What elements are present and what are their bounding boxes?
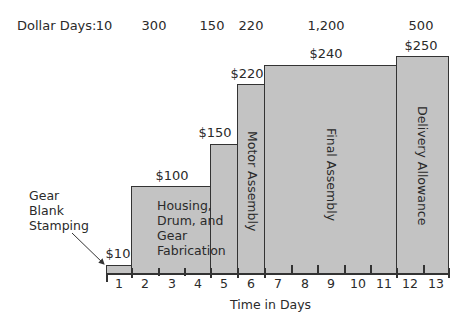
x-tick bbox=[396, 268, 398, 278]
x-tick bbox=[210, 268, 212, 278]
x-tick-label: 7 bbox=[274, 276, 282, 291]
x-tick bbox=[370, 265, 372, 275]
x-tick bbox=[423, 265, 425, 275]
x-tick-label: 12 bbox=[402, 276, 418, 291]
x-tick-label: 3 bbox=[168, 276, 176, 291]
x-tick bbox=[131, 268, 133, 278]
x-tick-label: 5 bbox=[220, 276, 228, 291]
x-tick bbox=[448, 268, 450, 278]
x-tick bbox=[106, 273, 108, 282]
x-tick-label: 2 bbox=[141, 276, 149, 291]
x-tick-label: 1 bbox=[115, 276, 123, 291]
x-tick-label: 8 bbox=[301, 276, 309, 291]
x-tick bbox=[158, 268, 160, 276]
x-tick-label: 13 bbox=[428, 276, 444, 291]
x-tick bbox=[291, 265, 293, 275]
x-tick bbox=[317, 265, 319, 275]
x-tick-label: 10 bbox=[350, 276, 366, 291]
x-tick-label: 6 bbox=[247, 276, 255, 291]
x-tick-label: 11 bbox=[376, 276, 392, 291]
x-tick bbox=[184, 268, 186, 276]
x-tick bbox=[264, 268, 266, 278]
x-tick bbox=[344, 265, 346, 275]
x-tick-label: 4 bbox=[194, 276, 202, 291]
x-axis-title: Time in Days bbox=[230, 297, 311, 312]
x-tick bbox=[237, 268, 239, 278]
x-tick-label: 9 bbox=[327, 276, 335, 291]
